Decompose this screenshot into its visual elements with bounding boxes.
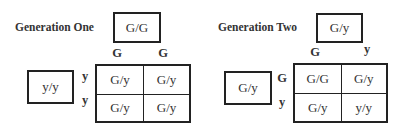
punnett-cell: G/y xyxy=(143,94,189,122)
punnett-cell: G/y xyxy=(341,65,387,93)
generation-one-top-parent: G/G xyxy=(113,12,161,43)
generation-one-title: Generation One xyxy=(15,21,94,33)
generation-one-row-allele-2: y xyxy=(78,93,92,108)
generation-two-left-parent: G/y xyxy=(224,71,272,105)
punnett-cell: G/y xyxy=(97,66,143,94)
generation-one-col-allele-1: G xyxy=(110,46,124,61)
generation-one-left-parent: y/y xyxy=(27,70,74,104)
punnett-cell: G/y xyxy=(143,66,189,94)
generation-two-row-allele-1: G xyxy=(275,71,289,86)
generation-two-col-allele-1: G xyxy=(308,45,322,60)
generation-one-col-allele-2: G xyxy=(156,46,170,61)
generation-two-col-allele-2: y xyxy=(360,42,374,57)
generation-one-punnett-square: G/y G/y G/y G/y xyxy=(95,64,191,123)
generation-one-row-allele-1: y xyxy=(78,69,92,84)
punnett-cell: G/y xyxy=(97,94,143,122)
generation-two-row-allele-2: y xyxy=(275,95,289,110)
generation-two-punnett-square: G/G G/y G/y y/y xyxy=(293,63,388,123)
punnett-cell: y/y xyxy=(341,93,387,121)
generation-two-title: Generation Two xyxy=(218,21,297,33)
punnett-cell: G/y xyxy=(295,93,341,121)
generation-two-top-parent: G/y xyxy=(316,13,363,43)
punnett-cell: G/G xyxy=(295,65,341,93)
